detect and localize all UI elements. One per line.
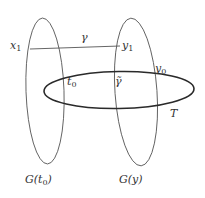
label-y0: y0	[155, 63, 166, 76]
label-T: T	[170, 108, 177, 119]
gamma-path	[30, 46, 120, 49]
fiber-left-ellipse	[23, 17, 66, 164]
label-t0: t0	[67, 76, 77, 89]
fiber-right-ellipse	[110, 17, 162, 168]
label-gamma-tilde: γ̃	[115, 76, 122, 87]
label-G-t0: G(t0)	[25, 174, 52, 187]
label-gamma: γ	[81, 32, 88, 43]
diagram-canvas	[0, 0, 205, 198]
label-G-y: G(y)	[119, 174, 143, 185]
label-y1: y1	[122, 40, 133, 53]
label-x1: x1	[10, 40, 21, 53]
